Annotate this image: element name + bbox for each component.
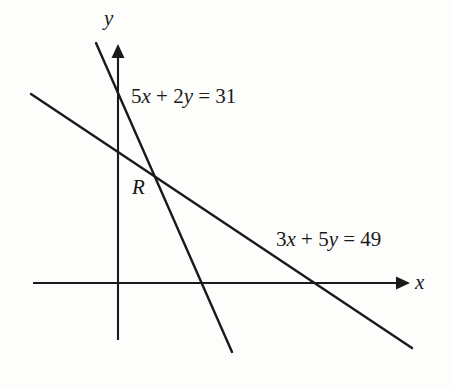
line-3x-5y-49 bbox=[31, 94, 412, 348]
eq2-coefficient-1: 3 bbox=[276, 227, 287, 251]
eq2-coefficient-2: 5 bbox=[318, 227, 329, 251]
equation-label-3x-5y-49: 3x + 5y = 49 bbox=[276, 229, 381, 250]
figure-canvas: y x R 5x + 2y = 31 3x + 5y = 49 bbox=[0, 0, 453, 389]
coordinate-diagram bbox=[0, 0, 453, 389]
eq2-rhs: 49 bbox=[360, 227, 381, 251]
x-axis bbox=[33, 277, 410, 290]
eq1-equals: = bbox=[193, 84, 215, 108]
y-axis-label: y bbox=[104, 8, 113, 29]
eq1-rhs: 31 bbox=[215, 84, 236, 108]
eq1-variable-y: y bbox=[184, 84, 193, 108]
eq2-variable-y: y bbox=[329, 227, 338, 251]
y-axis-arrowhead-icon bbox=[112, 44, 125, 58]
intersection-point-label: R bbox=[132, 177, 145, 198]
eq2-variable-x: x bbox=[287, 227, 296, 251]
eq1-coefficient-2: 2 bbox=[173, 84, 184, 108]
eq2-operator: + bbox=[296, 227, 318, 251]
eq1-variable-x: x bbox=[142, 84, 151, 108]
equation-label-5x-2y-31: 5x + 2y = 31 bbox=[131, 86, 236, 107]
eq1-operator: + bbox=[151, 84, 173, 108]
eq1-coefficient-1: 5 bbox=[131, 84, 142, 108]
x-axis-arrowhead-icon bbox=[396, 277, 410, 290]
x-axis-label: x bbox=[415, 272, 424, 293]
y-axis bbox=[112, 44, 125, 340]
eq2-equals: = bbox=[338, 227, 360, 251]
